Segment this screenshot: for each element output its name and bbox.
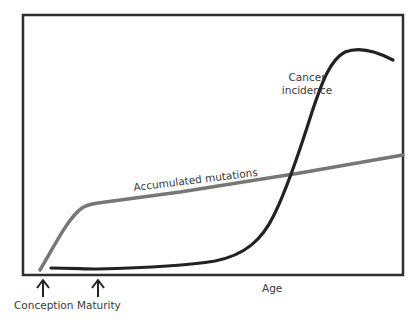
plot-frame bbox=[23, 15, 403, 275]
conception-label: Conception bbox=[14, 300, 73, 311]
cancer-label-line2: incidence bbox=[272, 85, 342, 96]
maturity-arrow-icon bbox=[92, 280, 104, 297]
x-axis-label: Age bbox=[262, 283, 282, 294]
cancer-incidence-label: Cancer incidence bbox=[272, 72, 342, 95]
conception-arrow-icon bbox=[37, 280, 49, 297]
cancer-label-line1: Cancer bbox=[272, 72, 342, 83]
chart-canvas: Accumulated mutations bbox=[0, 0, 416, 325]
maturity-label: Maturity bbox=[77, 300, 121, 311]
